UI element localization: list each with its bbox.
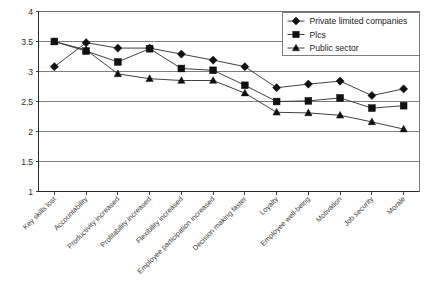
data-point-diamond — [400, 85, 408, 93]
x-axis-tick-label: Morale — [385, 195, 407, 217]
data-point-square — [273, 98, 280, 105]
data-point-diamond — [177, 50, 185, 58]
x-axis-tick-label: Motivation — [314, 195, 344, 225]
data-point-triangle — [305, 109, 312, 116]
legend-label: Private limited companies — [310, 16, 408, 26]
y-axis-tick-label: 3.5 — [21, 37, 33, 47]
data-point-diamond — [273, 84, 281, 92]
chart-canvas: 11.522.533.54Key skills lostAccountabili… — [0, 0, 425, 296]
data-point-square — [178, 65, 185, 72]
data-point-square — [210, 67, 217, 74]
data-point-diamond — [209, 56, 217, 64]
y-axis-tick-label: 1 — [28, 187, 33, 197]
x-axis-tick-label: Decision making faster — [191, 194, 249, 252]
data-point-diamond — [368, 91, 376, 99]
x-axis-tick-label: Job security — [342, 194, 376, 228]
data-point-triangle — [209, 77, 216, 84]
data-point-square — [337, 95, 344, 102]
data-point-triangle — [114, 70, 121, 77]
line-chart: 11.522.533.54Key skills lostAccountabili… — [0, 0, 425, 296]
data-point-diamond — [114, 44, 122, 52]
y-axis-tick-label: 2.5 — [21, 97, 33, 107]
data-point-diamond — [336, 77, 344, 85]
x-axis-tick-label: Loyalty — [258, 194, 281, 217]
data-point-square — [400, 102, 407, 109]
legend-label: Public sector — [310, 43, 359, 53]
data-point-square — [114, 59, 121, 66]
y-axis-tick-label: 4 — [28, 7, 33, 17]
y-axis-tick-label: 2 — [28, 127, 33, 137]
data-point-diamond — [304, 80, 312, 88]
chart-legend: Private limited companiesPlcsPublic sect… — [283, 13, 420, 56]
data-point-triangle — [273, 108, 280, 115]
x-axis-labels: Key skills lostAccountabilityProductivit… — [21, 192, 407, 276]
data-point-diamond — [241, 63, 249, 71]
y-axis-tick-label: 1.5 — [21, 157, 33, 167]
data-point-square — [368, 105, 375, 112]
legend-marker-square-icon — [293, 31, 299, 37]
data-point-square — [305, 98, 312, 105]
legend-label: Plcs — [310, 30, 326, 40]
data-point-diamond — [50, 63, 58, 71]
data-point-square — [241, 82, 248, 89]
y-axis-tick-label: 3 — [28, 67, 33, 77]
data-point-square — [146, 45, 153, 52]
